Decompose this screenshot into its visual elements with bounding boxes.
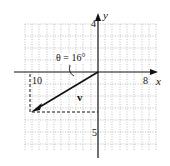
- vector-label: v: [77, 92, 83, 103]
- grid: [25, 24, 156, 150]
- angle-pointer: [70, 65, 75, 76]
- x-axis-label: x: [156, 76, 161, 87]
- y-tick-top: 4: [91, 19, 96, 29]
- y-tick-bottom: 5: [92, 128, 97, 138]
- x-tick-right: 8: [143, 76, 148, 86]
- angle-label: θ = 16°: [56, 53, 85, 63]
- x-tick-left: 10: [32, 76, 42, 86]
- y-axis-label: y: [103, 10, 108, 21]
- vector-arrowhead-icon: [31, 103, 42, 112]
